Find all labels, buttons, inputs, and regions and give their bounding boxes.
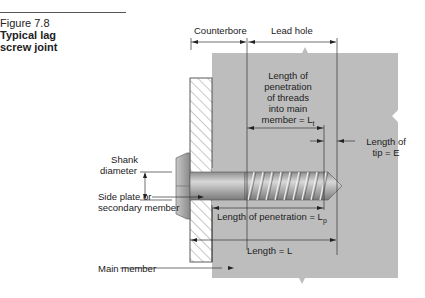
- side-plate-line1: Side plate or: [98, 191, 179, 202]
- counterbore-label: Counterbore: [194, 25, 247, 36]
- penetration-formula: Length of penetration = L: [217, 211, 323, 222]
- shank-line2: diameter: [100, 165, 138, 176]
- tip-length-label: Length of tip = E: [356, 136, 416, 158]
- penetration-length-label: Length of penetration = Lp: [217, 211, 327, 226]
- thread-penetration-line5: member = Lt: [254, 114, 322, 129]
- thread-subscript: t: [313, 120, 315, 127]
- thread-formula: member = L: [262, 114, 313, 125]
- shank-diameter-label: Shank diameter: [100, 154, 138, 176]
- tip-length-line1: Length of: [356, 136, 416, 147]
- side-plate-label: Side plate or secondary member: [98, 191, 179, 213]
- total-length-label: Length = L: [247, 245, 292, 256]
- shank-line1: Shank: [100, 154, 138, 165]
- side-plate-line2: secondary member: [98, 202, 179, 213]
- main-member-label: Main member: [98, 263, 156, 274]
- lead-hole-label: Lead hole: [271, 25, 313, 36]
- thread-penetration-line4: into main: [254, 103, 322, 114]
- thread-penetration-line2: penetration: [254, 81, 322, 92]
- tip-length-line2: tip = E: [356, 147, 416, 158]
- screw-threads: [245, 172, 342, 200]
- side-plate: [190, 78, 212, 262]
- thread-penetration-line3: of threads: [254, 92, 322, 103]
- penetration-subscript: p: [323, 217, 327, 224]
- thread-penetration-label: Length of penetration of threads into ma…: [254, 70, 322, 129]
- thread-penetration-line1: Length of: [254, 70, 322, 81]
